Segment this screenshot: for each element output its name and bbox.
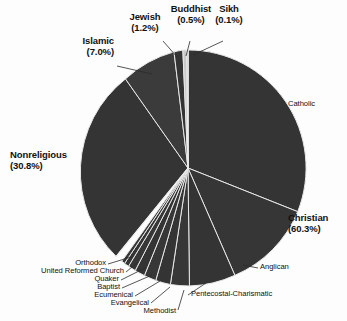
label-methodist-name: Methodist bbox=[144, 306, 176, 315]
label-pentecostal-charismatic-name: Pentecostal-Charismatic bbox=[191, 289, 272, 298]
pie-chart-figure: Islamic (7.0%) Jewish (1.2%) Buddhist (0… bbox=[0, 0, 347, 321]
label-sikh-name: Sikh bbox=[219, 3, 239, 14]
pie-slices bbox=[80, 50, 306, 286]
label-jewish-name: Jewish bbox=[129, 11, 160, 22]
label-nonreligious-name: Nonreligious bbox=[10, 149, 67, 160]
label-christian-percent: (60.3%) bbox=[288, 224, 328, 235]
leader-ecumenical bbox=[135, 281, 160, 296]
label-christian: Christian (60.3%) bbox=[288, 213, 328, 234]
label-catholic-name: Catholic bbox=[288, 99, 315, 108]
label-anglican: Anglican bbox=[260, 263, 289, 272]
label-buddhist-name: Buddhist bbox=[171, 3, 211, 14]
label-nonreligious-percent: (30.8%) bbox=[10, 161, 67, 172]
label-islamic: Islamic (7.0%) bbox=[38, 36, 114, 57]
label-sikh: Sikh (0.1%) bbox=[208, 4, 250, 25]
label-islamic-name: Islamic bbox=[82, 35, 114, 46]
label-pentecostal-charismatic: Pentecostal-Charismatic bbox=[191, 290, 272, 299]
label-anglican-name: Anglican bbox=[260, 262, 289, 271]
label-islamic-percent: (7.0%) bbox=[38, 47, 114, 58]
leader-methodist bbox=[178, 290, 184, 310]
label-sikh-percent: (0.1%) bbox=[208, 15, 250, 26]
label-catholic: Catholic bbox=[288, 100, 315, 109]
label-nonreligious: Nonreligious (30.8%) bbox=[10, 150, 67, 171]
label-methodist: Methodist bbox=[100, 307, 176, 316]
label-christian-name: Christian bbox=[288, 212, 328, 223]
leader-evangelical bbox=[151, 287, 170, 303]
